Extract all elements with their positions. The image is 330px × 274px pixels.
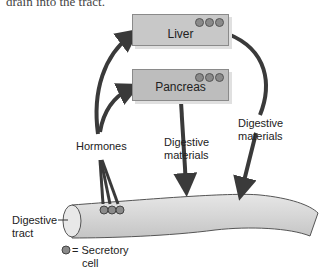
legend-text: cell (72, 257, 129, 270)
label-line: Digestive (12, 214, 57, 227)
digestive-materials-label-2: Digestive materials (238, 117, 283, 143)
liver-label: Liver (133, 27, 228, 41)
label-line: materials (238, 130, 283, 143)
label-line: Digestive (164, 136, 209, 149)
pancreas-box: Pancreas (132, 69, 229, 101)
digestive-tract-shape (63, 194, 318, 238)
label-line: Digestive (238, 117, 283, 130)
hormones-label: Hormones (76, 140, 127, 153)
pancreas-label: Pancreas (133, 80, 228, 94)
legend: = Secretory cell (72, 244, 129, 270)
digestive-materials-label-1: Digestive materials (164, 136, 209, 162)
label-line: tract (12, 227, 57, 240)
legend-text: = Secretory (72, 244, 129, 257)
digestive-tract-label: Digestive tract (12, 214, 57, 240)
label-line: materials (164, 149, 209, 162)
liver-box: Liver (132, 14, 229, 46)
secretory-cells-icon (195, 18, 224, 27)
